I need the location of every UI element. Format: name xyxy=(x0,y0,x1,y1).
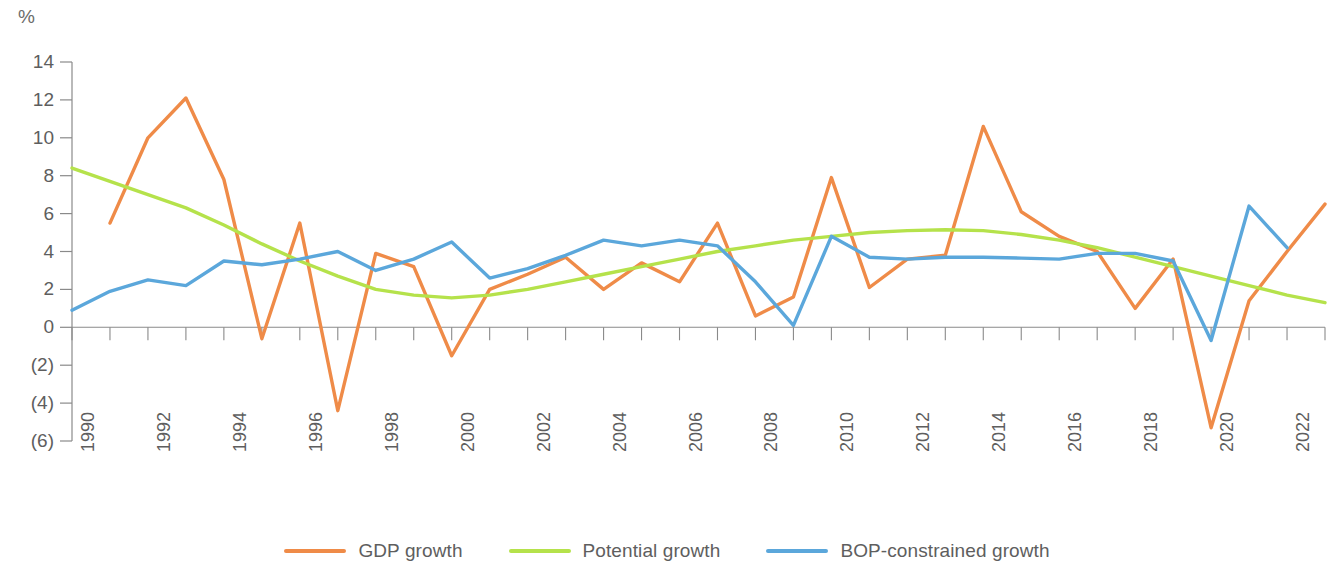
y-axis-tick-label: 14 xyxy=(2,52,54,71)
growth-line-chart: % 14121086420(2)(4)(6) 19901992199419961… xyxy=(0,0,1334,570)
y-axis-tick-label: (6) xyxy=(2,431,54,450)
legend-item[interactable]: Potential growth xyxy=(509,540,721,562)
y-axis-tick-label: 0 xyxy=(2,317,54,336)
x-axis-tick-label: 2008 xyxy=(762,412,780,452)
legend-color-swatch xyxy=(766,549,828,553)
legend-label: BOP-constrained growth xyxy=(840,540,1049,562)
series-line xyxy=(72,206,1287,341)
x-axis-tick-label: 2016 xyxy=(1066,412,1084,452)
legend-item[interactable]: GDP growth xyxy=(284,540,462,562)
series-line xyxy=(72,168,1325,303)
x-axis-tick-label: 2022 xyxy=(1294,412,1312,452)
x-axis-tick-label: 2006 xyxy=(687,412,705,452)
legend-color-swatch xyxy=(509,549,571,553)
y-axis-tick-label: 10 xyxy=(2,128,54,147)
plot-area xyxy=(0,0,1334,570)
y-axis-tick-label: (4) xyxy=(2,393,54,412)
x-axis-tick-label: 2010 xyxy=(838,412,856,452)
x-axis-tick-label: 1994 xyxy=(231,412,249,452)
series-layer xyxy=(72,98,1325,428)
y-axis-tick-label: 8 xyxy=(2,166,54,185)
chart-legend: GDP growthPotential growthBOP-constraine… xyxy=(0,534,1334,568)
x-axis-tick-label: 2004 xyxy=(611,412,629,452)
x-axis-tick-label: 1996 xyxy=(307,412,325,452)
legend-color-swatch xyxy=(284,549,346,553)
y-axis-tick-label: 6 xyxy=(2,204,54,223)
x-axis-tick-label: 2018 xyxy=(1142,412,1160,452)
x-axis-tick-label: 1990 xyxy=(79,412,97,452)
x-axis-tick-label: 2014 xyxy=(990,412,1008,452)
y-axis-tick-label: (2) xyxy=(2,355,54,374)
y-axis-tick-label: 2 xyxy=(2,279,54,298)
x-axis-tick-label: 2020 xyxy=(1218,412,1236,452)
y-axis-tick-label: 12 xyxy=(2,90,54,109)
series-line xyxy=(110,98,1325,428)
x-axis-tick-label: 2000 xyxy=(459,412,477,452)
legend-item[interactable]: BOP-constrained growth xyxy=(766,540,1049,562)
legend-label: Potential growth xyxy=(583,540,721,562)
x-axis-tick-label: 1998 xyxy=(383,412,401,452)
x-axis-tick-label: 1992 xyxy=(155,412,173,452)
x-axis-tick-label: 2012 xyxy=(914,412,932,452)
legend-label: GDP growth xyxy=(358,540,462,562)
axis-layer xyxy=(60,62,1325,441)
y-axis-tick-label: 4 xyxy=(2,242,54,261)
x-axis-tick-label: 2002 xyxy=(535,412,553,452)
